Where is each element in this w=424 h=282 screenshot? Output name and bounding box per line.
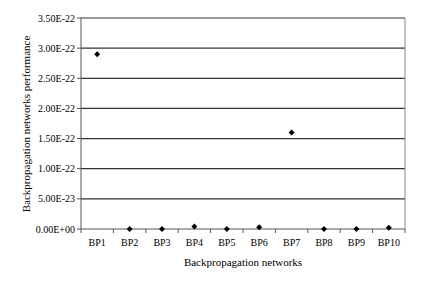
x-tick-label: BP5 — [218, 237, 235, 248]
x-tick-label: BP6 — [251, 237, 268, 248]
y-tick-label: 3.50E-22 — [38, 13, 75, 24]
data-point-diamond — [224, 226, 230, 232]
y-axis-ticks: 0.00E+005.00E-231.00E-221.50E-222.00E-22… — [36, 13, 81, 235]
x-tick-label: BP2 — [121, 237, 138, 248]
y-tick-label: 1.50E-22 — [38, 133, 75, 144]
y-tick-label: 0.00E+00 — [36, 224, 75, 235]
y-axis-label: Backpropagation networks performance — [20, 36, 32, 213]
data-point-diamond — [353, 226, 359, 232]
x-tick-label: BP8 — [315, 237, 332, 248]
gridlines — [81, 18, 405, 229]
data-point-diamond — [321, 226, 327, 232]
data-point-diamond — [386, 225, 392, 231]
x-tick-label: BP1 — [89, 237, 106, 248]
x-tick-label: BP9 — [348, 237, 365, 248]
data-point-diamond — [289, 130, 295, 136]
data-point-diamond — [159, 226, 165, 232]
y-tick-label: 1.00E-22 — [38, 163, 75, 174]
x-tick-label: BP4 — [186, 237, 203, 248]
data-point-diamond — [94, 51, 100, 57]
x-axis-label: Backpropagation networks — [184, 256, 302, 268]
data-point-diamond — [127, 226, 133, 232]
x-tick-label: BP7 — [283, 237, 300, 248]
y-tick-label: 2.50E-22 — [38, 73, 75, 84]
y-tick-label: 2.00E-22 — [38, 103, 75, 114]
y-tick-label: 5.00E-23 — [38, 193, 75, 204]
x-tick-label: BP10 — [378, 237, 400, 248]
y-tick-label: 3.00E-22 — [38, 43, 75, 54]
x-tick-label: BP3 — [153, 237, 170, 248]
scatter-chart: 0.00E+005.00E-231.00E-221.50E-222.00E-22… — [0, 0, 424, 282]
